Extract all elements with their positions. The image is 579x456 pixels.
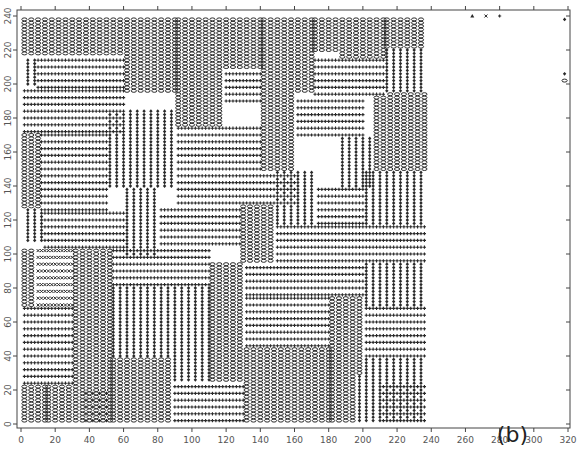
svg-text:260: 260 xyxy=(457,435,474,445)
svg-text:100: 100 xyxy=(183,435,200,445)
svg-text:200: 200 xyxy=(354,435,371,445)
svg-text:60: 60 xyxy=(3,316,13,328)
svg-text:120: 120 xyxy=(218,435,235,445)
svg-text:220: 220 xyxy=(388,435,405,445)
svg-text:140: 140 xyxy=(252,435,269,445)
svg-text:60: 60 xyxy=(118,435,130,445)
svg-text:40: 40 xyxy=(84,435,96,445)
svg-text:180: 180 xyxy=(320,435,337,445)
svg-text:0: 0 xyxy=(18,435,24,445)
panel-label: (b) xyxy=(497,422,528,447)
svg-text:180: 180 xyxy=(3,109,13,126)
lattice-scatter-plot: 0204060801001201401601802002202402602803… xyxy=(0,0,579,456)
svg-text:160: 160 xyxy=(3,143,13,160)
svg-text:100: 100 xyxy=(3,245,13,262)
svg-text:20: 20 xyxy=(3,384,13,396)
svg-text:320: 320 xyxy=(559,435,576,445)
svg-text:200: 200 xyxy=(3,75,13,92)
svg-text:40: 40 xyxy=(3,350,13,362)
svg-text:240: 240 xyxy=(423,435,440,445)
svg-text:160: 160 xyxy=(286,435,303,445)
svg-text:80: 80 xyxy=(152,435,164,445)
svg-text:120: 120 xyxy=(3,211,13,228)
svg-text:140: 140 xyxy=(3,177,13,194)
svg-text:20: 20 xyxy=(49,435,61,445)
svg-text:240: 240 xyxy=(3,7,13,24)
svg-text:220: 220 xyxy=(3,41,13,58)
lattice-points xyxy=(22,14,567,423)
svg-text:80: 80 xyxy=(3,282,13,294)
svg-text:0: 0 xyxy=(3,421,13,427)
